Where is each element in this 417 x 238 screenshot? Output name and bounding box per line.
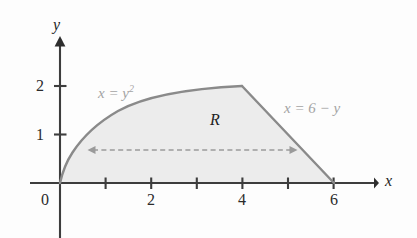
y-axis-arrowhead (55, 36, 66, 47)
y-tick-label-1: 1 (33, 127, 47, 143)
region-label: R (210, 112, 220, 128)
x-tick-label-4: 4 (235, 192, 249, 208)
x-axis-arrowhead (374, 178, 379, 189)
graph-canvas (0, 0, 417, 238)
x-tick-label-6: 6 (327, 192, 341, 208)
x-axis-label: x (385, 173, 392, 189)
line-equation-label: x = 6 − y (284, 101, 340, 116)
parabola-equation-label: x = y2 (98, 86, 134, 101)
figure-container: y x 0 2 4 6 1 2 x = y2 x = 6 − y R (0, 0, 417, 238)
y-tick-label-2: 2 (33, 78, 47, 94)
origin-label: 0 (38, 192, 52, 208)
parabola-equation-text: x = y (98, 85, 129, 101)
y-axis-label: y (53, 17, 60, 33)
x-tick-label-2: 2 (144, 192, 158, 208)
parabola-equation-exponent: 2 (129, 83, 134, 94)
